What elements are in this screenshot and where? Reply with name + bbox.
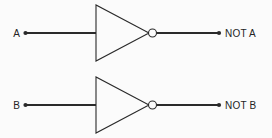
gate-2-triangle-body	[96, 77, 149, 133]
gate-1-triangle-body	[96, 5, 149, 61]
not-gate-2: B NOT B	[13, 77, 256, 133]
gate-2-output-terminal-dot	[217, 103, 221, 107]
gate-1-input-terminal-dot	[23, 31, 27, 35]
circuit-svg: A NOT A B	[0, 0, 272, 138]
gate-1-inverter-bubble	[149, 29, 157, 37]
gate-1-output-terminal-dot	[217, 31, 221, 35]
gate-2-output-label: NOT B	[225, 100, 257, 111]
logic-diagram-canvas: A NOT A B	[0, 0, 272, 138]
not-gate-1: A NOT A	[13, 5, 256, 61]
gate-1-output-label: NOT A	[225, 28, 256, 39]
gate-2-input-terminal-dot	[23, 103, 27, 107]
gate-1-input-label: A	[13, 28, 20, 39]
gate-2-inverter-bubble	[149, 101, 157, 109]
gate-2-input-label: B	[13, 100, 20, 111]
